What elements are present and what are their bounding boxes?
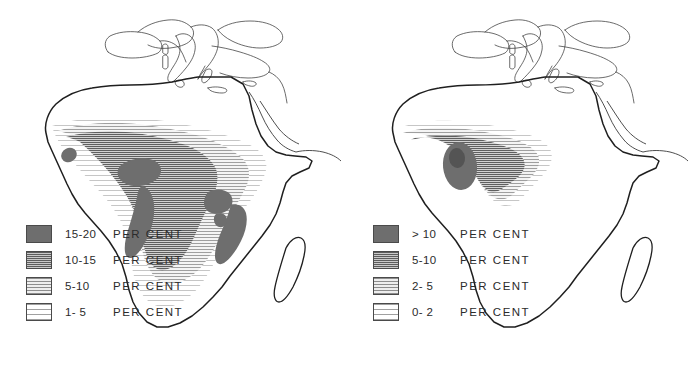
legend-range: 15-20 (65, 228, 113, 240)
legend-unit: PER CENT (460, 254, 530, 266)
legend-swatch-solid (373, 225, 399, 243)
legend-row: > 10 PER CENT (373, 224, 583, 244)
legend-range: 5-10 (412, 254, 460, 266)
legend-range: 2- 5 (412, 280, 460, 292)
legend-unit: PER CENT (113, 228, 183, 240)
legend-row: 2- 5 PER CENT (373, 276, 583, 296)
right-map-panel: > 10 PER CENT 5-10 PER CENT 2- 5 PER CEN… (347, 0, 694, 372)
legend-row: 0- 2 PER CENT (373, 302, 583, 322)
left-map-panel: 15-20 PER CENT 10-15 PER CENT 5-10 PER C… (0, 0, 347, 372)
legend-swatch-sparse (26, 303, 52, 321)
legend-range: 0- 2 (412, 306, 460, 318)
legend-swatch-medium (26, 277, 52, 295)
legend-unit: PER CENT (113, 306, 183, 318)
legend-row: 5-10 PER CENT (373, 250, 583, 270)
legend-unit: PER CENT (113, 254, 183, 266)
legend-row: 1- 5 PER CENT (26, 302, 236, 322)
legend-swatch-medium (373, 277, 399, 295)
legend-range: 10-15 (65, 254, 113, 266)
legend-unit: PER CENT (113, 280, 183, 292)
legend-swatch-solid (26, 225, 52, 243)
legend-row: 5-10 PER CENT (26, 276, 236, 296)
legend-unit: PER CENT (460, 306, 530, 318)
map-figure-pair: 15-20 PER CENT 10-15 PER CENT 5-10 PER C… (0, 0, 694, 372)
left-map-legend: 15-20 PER CENT 10-15 PER CENT 5-10 PER C… (26, 224, 236, 328)
legend-row: 15-20 PER CENT (26, 224, 236, 244)
legend-row: 10-15 PER CENT (26, 250, 236, 270)
legend-swatch-sparse (373, 303, 399, 321)
right-map-legend: > 10 PER CENT 5-10 PER CENT 2- 5 PER CEN… (373, 224, 583, 328)
legend-unit: PER CENT (460, 280, 530, 292)
legend-range: 5-10 (65, 280, 113, 292)
legend-range: > 10 (412, 228, 460, 240)
legend-range: 1- 5 (65, 306, 113, 318)
legend-swatch-dense (373, 251, 399, 269)
legend-unit: PER CENT (460, 228, 530, 240)
legend-swatch-dense (26, 251, 52, 269)
